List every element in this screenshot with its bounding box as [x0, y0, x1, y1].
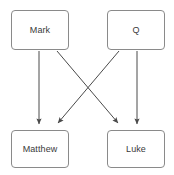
node-mark-label: Mark: [30, 26, 50, 35]
node-luke[interactable]: Luke: [107, 130, 165, 168]
edge-mark-to-luke: [57, 51, 118, 123]
node-q-label: Q: [132, 26, 139, 35]
edge-q-to-matthew: [58, 51, 119, 123]
node-luke-label: Luke: [126, 145, 146, 154]
node-q[interactable]: Q: [107, 10, 165, 50]
diagram-canvas: Mark Q Matthew Luke: [0, 0, 174, 175]
node-matthew-label: Matthew: [23, 145, 58, 154]
node-matthew[interactable]: Matthew: [11, 130, 69, 168]
node-mark[interactable]: Mark: [11, 10, 69, 50]
